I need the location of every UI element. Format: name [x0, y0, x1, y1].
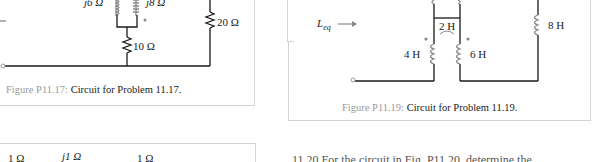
caption-text: Circuit for Problem 11.19.: [407, 102, 518, 113]
label-j6: j6 Ω: [82, 0, 103, 8]
terminal-icon: [1, 64, 5, 68]
circuit-p11-17: j6 Ω j8 Ω 10 Ω 20 Ω: [0, 0, 239, 68]
label-leq: Leq: [316, 17, 331, 32]
partial-label-3: 1 Ω: [137, 152, 153, 162]
terminal-icon: [351, 78, 355, 82]
coil-icon: [431, 44, 461, 64]
caption-p11-19: Figure P11.19: Circuit for Problem 11.19…: [342, 102, 517, 113]
label-6h: 6 H: [470, 48, 486, 60]
label-8h: 8 H: [548, 19, 564, 31]
partial-label-1: 1 Ω: [8, 152, 24, 162]
coil-icon: [535, 15, 539, 35]
figure-label: Figure P11.17:: [6, 84, 68, 95]
label-20ohm: 20 Ω: [217, 16, 239, 28]
problem-text-partial: 11.20 For the circuit in Fig. P11.20, de…: [292, 153, 600, 162]
partial-label-2: j1 Ω: [60, 150, 81, 162]
caption-p11-17: Figure P11.17: Circuit for Problem 11.17…: [6, 84, 181, 95]
label-10ohm: 10 Ω: [133, 40, 155, 52]
label-j8: j8 Ω: [144, 0, 165, 8]
figure-label: Figure P11.19:: [342, 102, 404, 113]
label-2h: 2 H: [439, 20, 455, 32]
label-4h: 4 H: [404, 48, 420, 60]
resistor-icon: [123, 37, 131, 53]
resistor-icon: [206, 12, 214, 28]
circuit-diagrams: j6 Ω j8 Ω 10 Ω 20 Ω: [0, 0, 600, 162]
dot-marker: [144, 19, 147, 22]
coil-icon: [116, 0, 139, 16]
dot-marker: [424, 37, 427, 40]
caption-text: Circuit for Problem 11.17.: [71, 84, 182, 95]
dot-marker: [466, 37, 469, 40]
circuit-p11-19: Leq 2 H 4 H 6 H 8 H: [316, 0, 564, 82]
problem-text: 11.20 For the circuit in Fig. P11.20, de…: [292, 153, 544, 162]
